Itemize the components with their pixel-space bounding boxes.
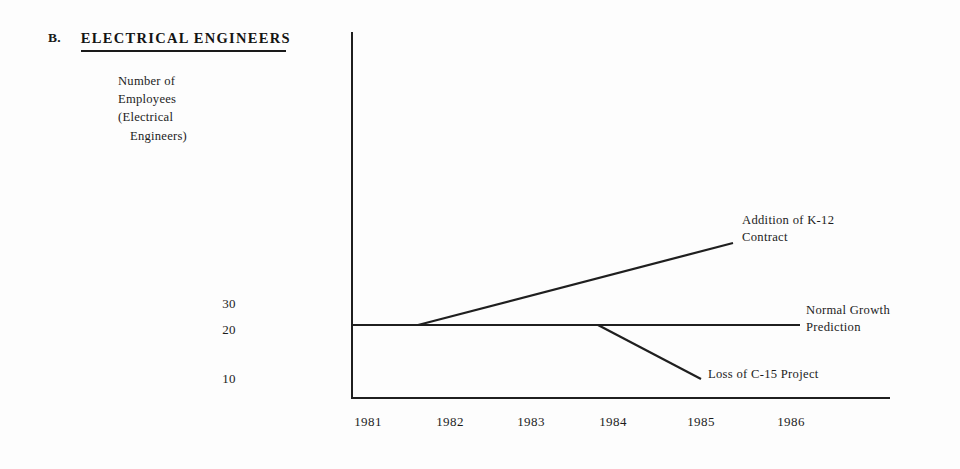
y-axis-label-line-4: Engineers) — [118, 127, 228, 145]
annotation-normal-growth-line-2: Prediction — [806, 319, 890, 336]
x-tick-label-1984: 1984 — [583, 414, 643, 430]
x-tick-label-1983: 1983 — [501, 414, 561, 430]
y-tick-label-20: 20 — [196, 322, 236, 338]
x-tick-label-1982: 1982 — [420, 414, 480, 430]
y-axis-label-line-1: Number of — [118, 72, 228, 90]
title-underline-rule — [81, 50, 286, 52]
x-tick-label-1986: 1986 — [761, 414, 821, 430]
annotation-addition-k12: Addition of K-12 Contract — [742, 212, 834, 247]
heading-title-group: ELECTRICAL ENGINEERS — [81, 30, 299, 52]
y-tick-label-10: 10 — [196, 371, 236, 387]
series-line-addition-k12 — [418, 243, 733, 325]
y-axis-label: Number of Employees (Electrical Engineer… — [118, 72, 228, 145]
chart-page: B. ELECTRICAL ENGINEERS Number of Employ… — [0, 0, 960, 469]
annotation-addition-k12-line-1: Addition of K-12 — [742, 212, 834, 229]
heading-section-letter: B. — [48, 30, 61, 46]
annotation-addition-k12-line-2: Contract — [742, 229, 834, 246]
y-axis-label-line-2: Employees — [118, 90, 228, 108]
annotation-normal-growth-line-1: Normal Growth — [806, 302, 890, 319]
page-title: ELECTRICAL ENGINEERS — [81, 30, 299, 47]
x-tick-label-1981: 1981 — [338, 414, 398, 430]
annotation-loss-c15-line-1: Loss of C-15 Project — [708, 366, 819, 383]
y-axis-label-line-3: (Electrical — [118, 108, 228, 126]
y-axis-line — [351, 32, 353, 399]
chart-heading: B. ELECTRICAL ENGINEERS — [48, 30, 299, 52]
series-line-loss-c15 — [598, 325, 701, 379]
x-axis-line — [351, 397, 890, 399]
annotation-loss-c15: Loss of C-15 Project — [708, 366, 819, 383]
x-tick-label-1985: 1985 — [671, 414, 731, 430]
y-tick-label-30: 30 — [196, 296, 236, 312]
annotation-normal-growth: Normal Growth Prediction — [806, 302, 890, 337]
